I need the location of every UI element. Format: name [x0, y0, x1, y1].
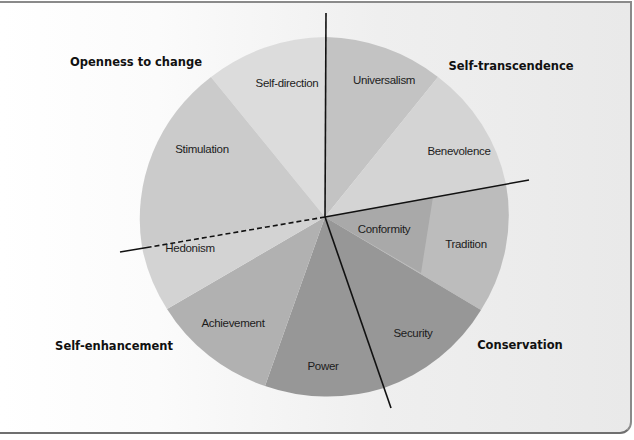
divider-vertical [325, 13, 326, 217]
label-benevolence: Benevolence [427, 145, 490, 157]
label-power: Power [307, 360, 339, 372]
label-hedonism: Hedonism [165, 242, 214, 254]
group-label-self-transcendence: Self-transcendence [448, 59, 573, 73]
values-circle-diagram: Self-direction Universalism Benevolence … [0, 0, 634, 440]
group-label-self-enhancement: Self-enhancement [55, 339, 173, 353]
label-universalism: Universalism [353, 74, 415, 86]
group-label-openness-to-change: Openness to change [70, 55, 202, 69]
group-label-conservation: Conservation [477, 338, 563, 352]
label-stimulation: Stimulation [175, 143, 229, 155]
label-security: Security [393, 327, 433, 339]
label-achievement: Achievement [201, 317, 265, 329]
label-tradition: Tradition [445, 238, 487, 250]
label-self-direction: Self-direction [256, 77, 319, 89]
diagram-frame: Self-direction Universalism Benevolence … [0, 0, 634, 440]
label-conformity: Conformity [358, 223, 411, 235]
